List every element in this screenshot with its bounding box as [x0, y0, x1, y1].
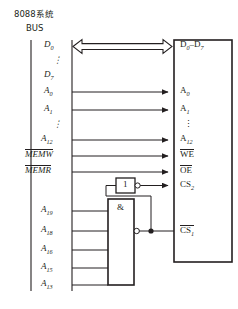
bus-label-d-ellipsis: ⋮: [53, 56, 62, 65]
chip-pin-d0-d7: D0–D7: [180, 40, 204, 51]
bus-label-a-ellipsis: ⋮: [53, 120, 62, 129]
bus-label-a0: A0: [44, 86, 53, 97]
chip-pin-a12: A12: [180, 134, 193, 145]
chip-pin-a0: A0: [180, 86, 190, 97]
bus-label-d7: D7: [44, 70, 54, 81]
junction-dot: [148, 228, 153, 233]
bus-label-memw: MEMW: [25, 149, 53, 159]
chip-pin-cs1: CS1: [180, 225, 194, 237]
bus-label-memr: MEMR: [25, 165, 51, 175]
diagram-title-cn: 8088系统: [14, 10, 54, 19]
chip-pin-a1: A1: [180, 104, 190, 115]
chip-pin-oe: OE: [180, 165, 192, 175]
bus-label-a12: A12: [41, 134, 53, 145]
and-gate-output-bubble: [134, 228, 139, 233]
bus-label-a18: A18: [41, 225, 53, 236]
data-bus-arrow: [73, 40, 172, 54]
bus-label-a19: A19: [41, 205, 53, 216]
inverter-output-bubble: [135, 183, 140, 188]
bus-label-d0: D0: [44, 40, 54, 51]
diagram-title-en: BUS: [26, 24, 43, 33]
and-gate-symbol: &: [117, 203, 124, 212]
chip-pin-ellipsis: ⋮: [184, 120, 193, 129]
inverter-gate-symbol: 1: [123, 180, 128, 189]
bus-label-a1: A1: [44, 104, 53, 115]
chip-pin-cs2: CS2: [180, 180, 194, 191]
bus-label-a13: A13: [41, 279, 53, 290]
chip-pin-we: WE: [180, 149, 194, 159]
bus-label-a16: A16: [41, 244, 53, 255]
bus-label-a15: A15: [41, 262, 53, 273]
circuit-diagram: 8088系统 BUS D0 ⋮ D7 A0 A1 ⋮ A12 MEMW MEMR…: [0, 0, 238, 309]
